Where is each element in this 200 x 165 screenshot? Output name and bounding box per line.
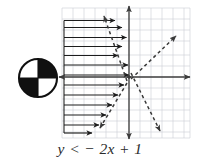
quadrant-circle-bullet-icon	[19, 59, 57, 97]
figure-container: y < − 2x + 1	[0, 0, 200, 165]
reference-line-dashed	[100, 36, 176, 128]
boundary-line-dashed	[104, 16, 160, 131]
equation-caption: y < − 2x + 1	[0, 139, 200, 159]
